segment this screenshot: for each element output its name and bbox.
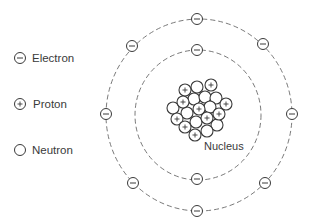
electron-icon (15, 53, 26, 64)
electron-icon (287, 109, 298, 120)
proton-icon (189, 129, 201, 141)
electron-icon (258, 39, 269, 50)
legend-label-electron: Electron (32, 52, 74, 64)
legend: Electron Proton Neutron (15, 52, 75, 156)
proton-icon (201, 112, 213, 124)
atom-diagram-svg: Electron Proton Neutron Nu (0, 0, 310, 223)
neutron-icon (190, 116, 202, 128)
electron-icon (101, 109, 112, 120)
atom-diagram: Electron Proton Neutron Nu (0, 0, 310, 223)
proton-icon (15, 99, 26, 110)
nucleus (167, 79, 232, 141)
legend-item-proton: Proton (15, 98, 67, 110)
electron-icon (192, 45, 203, 56)
electron-icon (192, 174, 203, 185)
legend-label-neutron: Neutron (32, 144, 73, 156)
legend-item-neutron: Neutron (15, 144, 73, 156)
neutron-icon (191, 81, 203, 93)
proton-icon (179, 121, 191, 133)
neutron-icon (201, 125, 213, 137)
electron-icon (192, 206, 203, 217)
electron-icon (260, 178, 271, 189)
proton-icon (177, 96, 189, 108)
nucleus-label: Nucleus (204, 140, 244, 152)
proton-icon (205, 79, 217, 91)
legend-label-proton: Proton (33, 98, 67, 110)
electron-icon (128, 178, 139, 189)
proton-icon (179, 84, 191, 96)
proton-icon (213, 108, 225, 120)
neutron-icon (15, 145, 26, 156)
electron-icon (127, 41, 138, 52)
electron-icon (192, 14, 203, 25)
legend-item-electron: Electron (15, 52, 75, 64)
